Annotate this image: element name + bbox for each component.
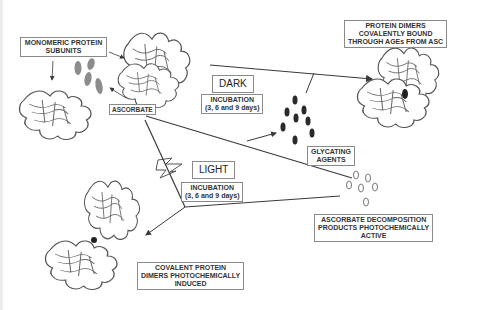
dimers-ages-label: PROTEIN DIMERS COVALENTLY BOUND THROUGH … xyxy=(344,20,447,48)
label-line: INDUCED xyxy=(141,280,240,288)
label-line: PRODUCTS PHOTOCHEMICALLY xyxy=(318,224,429,232)
glycating-agents-label: GLYCATING AGENTS xyxy=(307,146,355,166)
label-line: THROUGH AGEs FROM ASC xyxy=(348,38,443,46)
protein-structure-icon xyxy=(357,48,438,127)
lightning-bolt-icon xyxy=(156,158,182,178)
label-line: LIGHT xyxy=(199,164,228,176)
label-line: (3, 6 and 9 days) xyxy=(205,104,259,112)
light-label: LIGHT xyxy=(192,161,235,179)
label-line: INCUBATION xyxy=(205,96,259,104)
decomposition-products-label: ASCORBATE DECOMPOSITION PRODUCTS PHOTOCH… xyxy=(314,214,433,242)
ascorbate-molecule-icon xyxy=(75,57,104,94)
label-line: COVALENT PROTEIN xyxy=(141,264,240,272)
ascorbate-label: ASCORBATE xyxy=(109,104,156,115)
label-line: INCUBATION xyxy=(185,184,239,192)
dark-incubation-label: INCUBATION (3, 6 and 9 days) xyxy=(201,94,263,114)
label-line: DIMERS PHOTOCHEMICALLY xyxy=(141,272,240,280)
protein-structure-icon xyxy=(19,91,90,140)
label-line: DARK xyxy=(219,78,247,90)
label-line: (3, 6 and 9 days) xyxy=(185,192,239,200)
label-line: SUBUNITS xyxy=(24,47,103,55)
light-incubation-label: INCUBATION (3, 6 and 9 days) xyxy=(181,182,243,202)
label-line: MONOMERIC PROTEIN xyxy=(24,39,103,47)
label-line: ACTIVE xyxy=(318,232,429,240)
label-line: AGENTS xyxy=(311,156,351,164)
protein-structure-icon xyxy=(118,33,190,107)
monomeric-subunits-label: MONOMERIC PROTEIN SUBUNITS xyxy=(20,37,107,57)
label-line: COVALENTLY BOUND xyxy=(348,30,443,38)
label-line: PROTEIN DIMERS xyxy=(348,22,443,30)
label-line: GLYCATING xyxy=(311,148,351,156)
glycating-agent-icon xyxy=(281,96,315,145)
photo-dimers-label: COVALENT PROTEIN DIMERS PHOTOCHEMICALLY … xyxy=(137,262,244,290)
dark-label: DARK xyxy=(212,75,254,93)
decomposition-product-icon xyxy=(347,171,378,206)
label-line: ASCORBATE DECOMPOSITION xyxy=(318,216,429,224)
protein-structure-icon xyxy=(45,181,139,289)
label-line: ASCORBATE xyxy=(112,106,153,113)
